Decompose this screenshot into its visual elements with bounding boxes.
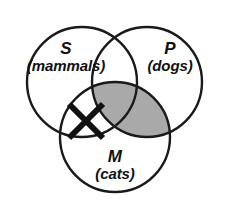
- set-letter-p: P: [131, 40, 209, 58]
- set-label-m: M (cats): [68, 148, 162, 183]
- venn-diagram-canvas: [0, 0, 229, 219]
- set-label-s: S (mammals): [16, 40, 116, 75]
- set-letter-s: S: [16, 40, 116, 58]
- x-mark-icon: [69, 104, 103, 138]
- venn-diagram-figure: S (mammals) P (dogs) M (cats): [0, 0, 229, 219]
- set-subtitle-p: (dogs): [131, 58, 209, 74]
- set-subtitle-m: (cats): [68, 166, 162, 182]
- set-letter-m: M: [68, 148, 162, 166]
- set-subtitle-s: (mammals): [16, 58, 116, 74]
- set-label-p: P (dogs): [131, 40, 209, 75]
